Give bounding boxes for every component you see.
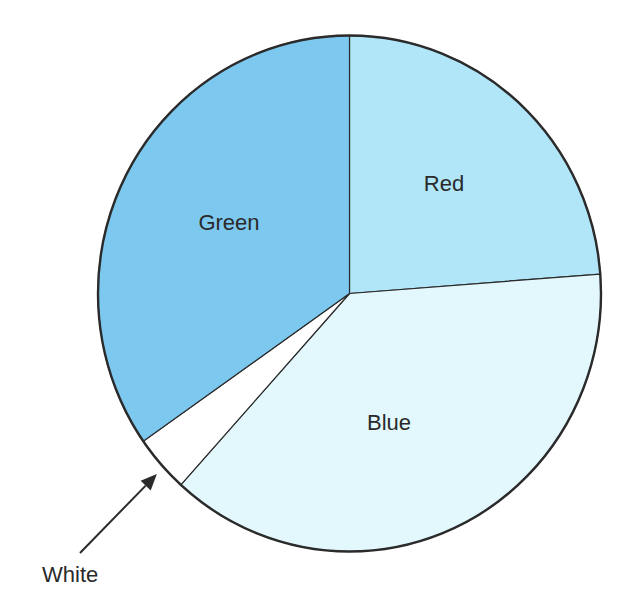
callouts: White — [42, 474, 157, 587]
slice-label-white: White — [42, 562, 98, 587]
pie-slice-red — [350, 36, 601, 294]
callout-arrow-line-white — [80, 486, 146, 553]
pie-slices — [98, 36, 601, 552]
slice-label-green: Green — [198, 210, 259, 235]
slice-label-blue: Blue — [367, 410, 411, 435]
pie-chart: RedBlueGreen White — [0, 0, 626, 614]
slice-label-red: Red — [424, 171, 464, 196]
